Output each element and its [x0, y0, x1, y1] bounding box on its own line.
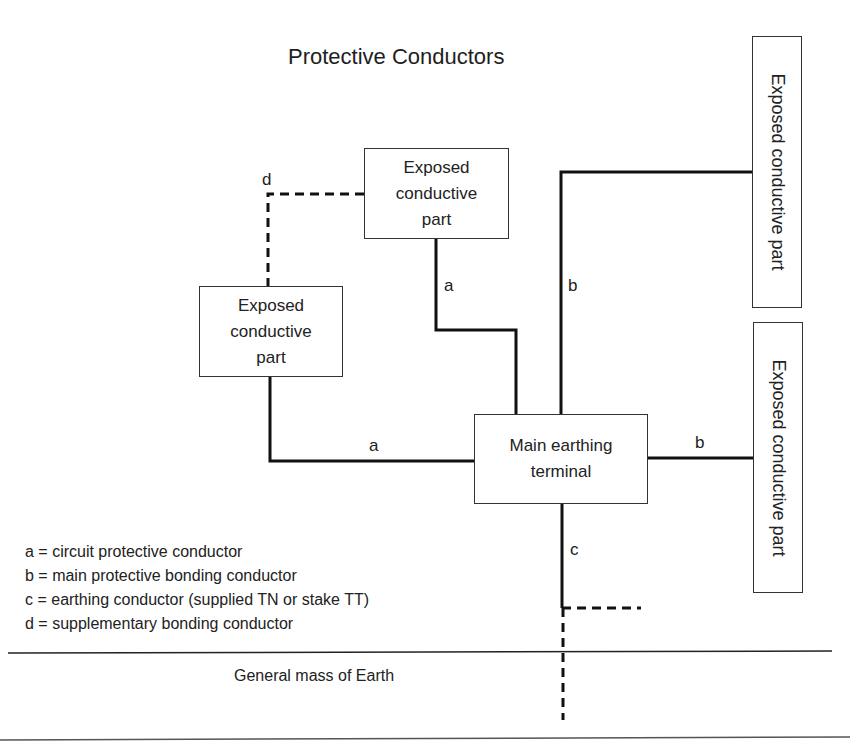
label-a-left: a	[369, 436, 378, 456]
box-line: conductive	[230, 319, 311, 345]
box-main-earthing-terminal: Main earthing terminal	[474, 414, 648, 504]
legend-item-b: b = main protective bonding conductor	[25, 564, 369, 588]
conductor-b-top	[561, 172, 752, 414]
legend: a = circuit protective conductor b = mai…	[25, 540, 369, 636]
ground-line	[8, 651, 832, 653]
box-line: conductive	[396, 181, 477, 207]
box-line: terminal	[509, 459, 612, 485]
box-line: Exposed	[230, 293, 311, 319]
label-c: c	[570, 540, 579, 560]
label-d: d	[262, 170, 271, 190]
box-exposed-part-top: Exposed conductive part	[364, 148, 509, 239]
box-vertical-label: Exposed conductive part	[767, 73, 788, 270]
label-a-top: a	[444, 276, 453, 296]
legend-item-c: c = earthing conductor (supplied TN or s…	[25, 588, 369, 612]
box-exposed-part-right-top: Exposed conductive part	[752, 36, 802, 308]
legend-item-d: d = supplementary bonding conductor	[25, 612, 369, 636]
box-exposed-part-left: Exposed conductive part	[199, 286, 343, 377]
box-line: part	[396, 207, 477, 233]
legend-item-a: a = circuit protective conductor	[25, 540, 369, 564]
conductor-a-top	[436, 238, 516, 414]
label-b-right: b	[695, 433, 704, 453]
bottom-border	[0, 737, 850, 740]
diagram-title: Protective Conductors	[288, 44, 504, 70]
box-line: part	[230, 345, 311, 371]
ground-label: General mass of Earth	[234, 667, 394, 685]
conductor-d	[268, 194, 364, 286]
label-b-top: b	[568, 276, 577, 296]
box-exposed-part-right-bottom: Exposed conductive part	[753, 322, 803, 593]
box-line: Main earthing	[509, 433, 612, 459]
box-line: Exposed	[396, 155, 477, 181]
box-vertical-label: Exposed conductive part	[768, 359, 789, 556]
